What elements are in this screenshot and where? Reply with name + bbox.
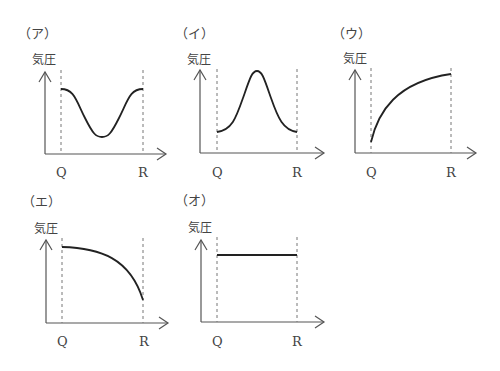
x-tick-q: Q: [212, 334, 223, 349]
y-axis-label: 気圧: [188, 220, 212, 235]
y-axis-label: 気圧: [32, 52, 56, 67]
x-tick-q: Q: [212, 165, 223, 180]
pressure-curve: [371, 74, 451, 142]
panel-u: （ウ） 気圧 Q R: [332, 26, 476, 180]
panel-label: （ウ）: [332, 26, 371, 41]
x-tick-r: R: [138, 165, 149, 180]
pressure-graphs-diagram: （ア） 気圧 Q R （イ） 気圧 Q R （ウ） 気圧 Q R: [0, 0, 500, 371]
x-tick-r: R: [292, 334, 303, 349]
panel-label: （エ）: [22, 194, 61, 209]
panel-o: （オ） 気圧 Q R: [175, 193, 324, 349]
panel-label: （イ）: [175, 26, 214, 41]
y-axis-label: 気圧: [187, 52, 211, 67]
panel-label: （オ）: [175, 193, 214, 208]
panel-i: （イ） 気圧 Q R: [175, 26, 324, 180]
pressure-curve: [61, 89, 143, 137]
x-tick-q: Q: [57, 334, 68, 349]
panel-label: （ア）: [18, 26, 57, 41]
pressure-curve: [62, 247, 143, 300]
x-tick-r: R: [139, 334, 150, 349]
panel-e: （エ） 気圧 Q R: [22, 194, 168, 349]
x-tick-r: R: [446, 165, 457, 180]
x-tick-q: Q: [56, 165, 67, 180]
y-axis-label: 気圧: [34, 221, 58, 236]
x-tick-q: Q: [366, 165, 377, 180]
panel-a: （ア） 気圧 Q R: [18, 26, 166, 180]
x-tick-r: R: [292, 165, 303, 180]
pressure-curve: [217, 71, 297, 132]
y-axis-label: 気圧: [343, 51, 367, 66]
